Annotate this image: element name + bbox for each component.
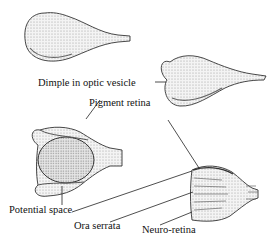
- label-potential-space: Potential space: [9, 204, 72, 216]
- optic-vesicle-drawing: [25, 13, 130, 61]
- label-neuro-retina: Neuro-retina: [142, 224, 196, 236]
- label-ora-serrata: Ora serrata: [74, 220, 120, 232]
- pigment-retina-leader-2: [168, 120, 199, 168]
- dimpled-vesicle-drawing: [161, 56, 266, 106]
- ora-serrata-leader: [110, 192, 193, 222]
- retina-section-drawing: [191, 166, 259, 221]
- label-pigment-retina: Pigment retina: [89, 97, 151, 109]
- optic-cup-drawing: [32, 127, 122, 196]
- label-dimple-in-optic-vesicle: Dimple in optic vesicle: [38, 77, 136, 89]
